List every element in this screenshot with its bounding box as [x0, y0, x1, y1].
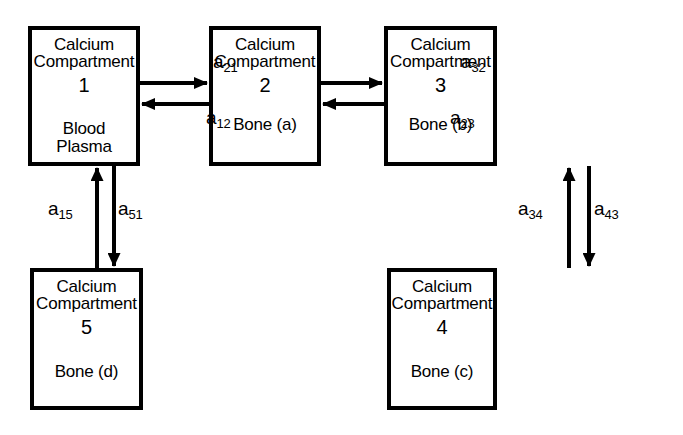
node-compartment-3-subtitle: Bone (b) — [388, 116, 493, 133]
node-compartment-5-number: 5 — [34, 317, 139, 337]
node-compartment-2: Calcium Compartment 2 Bone (a) — [209, 26, 321, 166]
node-compartment-4-inner: Calcium Compartment 4 Bone (c) — [391, 272, 493, 406]
node-compartment-4-number: 4 — [391, 317, 493, 337]
node-compartment-3: Calcium Compartment 3 Bone (b) — [384, 26, 497, 166]
node-compartment-3-inner: Calcium Compartment 3 Bone (b) — [388, 30, 493, 162]
node-compartment-2-inner: Calcium Compartment 2 Bone (a) — [213, 30, 317, 162]
node-compartment-1: Calcium Compartment 1 Blood Plasma — [28, 26, 140, 166]
edge-label-a21: a21 — [213, 51, 237, 73]
node-compartment-1-number: 1 — [32, 75, 136, 95]
edge-label-a23: a23 — [450, 107, 474, 129]
node-compartment-4: Calcium Compartment 4 Bone (c) — [387, 268, 497, 410]
node-compartment-5-inner: Calcium Compartment 5 Bone (d) — [34, 272, 139, 406]
node-compartment-5-title: Calcium Compartment — [34, 278, 139, 313]
edge-label-a43: a43 — [594, 198, 618, 220]
edge-label-a32: a32 — [461, 51, 485, 73]
node-compartment-2-number: 2 — [213, 75, 317, 95]
node-compartment-1-subtitle: Blood Plasma — [32, 120, 136, 156]
edge-label-a34: a34 — [518, 198, 542, 220]
edge-label-a12: a12 — [206, 107, 230, 129]
node-compartment-5-subtitle: Bone (d) — [34, 363, 139, 380]
node-compartment-1-title: Calcium Compartment — [32, 36, 136, 71]
node-compartment-1-inner: Calcium Compartment 1 Blood Plasma — [32, 30, 136, 162]
node-compartment-5: Calcium Compartment 5 Bone (d) — [30, 268, 143, 410]
calcium-compartment-diagram: Calcium Compartment 1 Blood Plasma Calci… — [0, 0, 683, 435]
node-compartment-4-subtitle: Bone (c) — [391, 363, 493, 380]
edge-label-a15: a15 — [48, 198, 72, 220]
edge-label-a51: a51 — [118, 198, 142, 220]
node-compartment-3-number: 3 — [388, 75, 493, 95]
node-compartment-4-title: Calcium Compartment — [391, 278, 493, 313]
